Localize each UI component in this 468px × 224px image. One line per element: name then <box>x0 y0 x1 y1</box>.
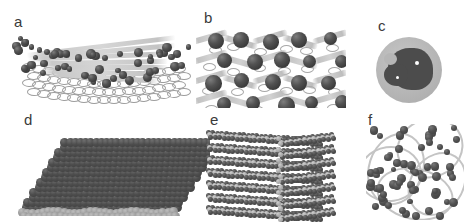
stack-pillar-sphere <box>278 217 283 222</box>
dispersed-nanoparticle <box>418 144 425 151</box>
nanoparticle <box>14 46 23 55</box>
panel-b-artwork <box>196 24 346 108</box>
panel-label-a: a <box>14 14 22 29</box>
stack-pillar-sphere <box>278 185 283 190</box>
intercalated-nanoparticle <box>291 32 307 48</box>
particle-highlight-1 <box>415 61 419 65</box>
stack-pillar-sphere <box>276 201 281 206</box>
dispersed-nanoparticle <box>432 172 441 181</box>
nanoparticle <box>102 55 108 61</box>
stack-pillar-sphere <box>278 163 283 168</box>
dispersed-nanoparticle <box>449 174 456 181</box>
nanoparticle <box>75 54 83 62</box>
intercalated-nanoparticle <box>278 97 295 108</box>
nanoparticle <box>37 47 42 52</box>
intercalated-nanoparticle <box>303 55 316 68</box>
mesh-cell <box>177 87 191 95</box>
stack-pillar-sphere <box>276 212 281 217</box>
stack-sphere <box>318 217 323 222</box>
dispersed-nanoparticle <box>446 163 454 171</box>
intercalated-nanoparticle <box>265 74 281 90</box>
panel-c: c <box>362 18 454 106</box>
intercalated-nanoparticle <box>263 34 279 50</box>
dispersed-nanoparticle <box>399 207 406 214</box>
panel-f-artwork <box>366 124 464 220</box>
intercalated-nanoparticle <box>246 96 260 108</box>
nanoparticle <box>55 65 61 71</box>
stack-sphere-side <box>331 211 336 216</box>
intercalated-nanoparticle <box>335 95 346 109</box>
particle-notch <box>384 53 397 65</box>
stack-pillar-sphere <box>276 190 281 195</box>
intercalated-nanoparticle <box>324 32 337 45</box>
layer-loop <box>231 88 244 96</box>
intercalated-nanoparticle <box>335 55 346 68</box>
dispersed-nanoparticle <box>384 154 392 162</box>
stack-sphere-side <box>331 149 336 154</box>
nanoparticle <box>27 61 35 69</box>
dispersed-nanoparticle <box>407 199 413 205</box>
stack-sphere-side <box>331 161 336 166</box>
dispersed-nanoparticle <box>412 212 420 220</box>
intercalated-nanoparticle <box>217 97 231 108</box>
particle-highlight-2 <box>396 76 399 79</box>
nanoparticle <box>40 60 48 68</box>
nanoparticle <box>51 50 59 58</box>
intercalated-nanoparticle <box>208 33 224 49</box>
panel-a: a <box>6 14 196 108</box>
stack-sphere-side <box>331 136 336 141</box>
nanoparticle <box>88 74 96 82</box>
panel-d: d <box>14 112 210 216</box>
panel-c-artwork <box>372 34 448 106</box>
intercalated-nanoparticle <box>247 54 263 70</box>
particle-core-lobe <box>384 64 408 86</box>
stack-pillar-sphere <box>276 136 281 141</box>
dispersed-nanoparticle <box>385 202 392 209</box>
dispersed-nanoparticle <box>393 159 401 167</box>
nanoparticle <box>119 71 127 79</box>
stack-pillar-sphere <box>276 158 281 163</box>
stack-pillar-sphere <box>278 174 283 179</box>
dispersed-nanoparticle <box>449 198 458 207</box>
dispersed-nanoparticle <box>431 162 440 171</box>
intercalated-nanoparticle <box>205 75 221 91</box>
stack-sphere-side <box>331 199 336 204</box>
layer-loop <box>300 47 313 55</box>
nanoparticle <box>29 44 34 49</box>
dispersed-nanoparticle <box>372 203 379 210</box>
nanoparticle <box>152 67 159 74</box>
stack-sphere-side <box>331 186 336 191</box>
intercalated-nanoparticle <box>305 96 319 108</box>
nanoparticle <box>168 54 175 61</box>
dispersed-nanoparticle <box>425 207 433 215</box>
panel-d-artwork <box>14 124 210 216</box>
panel-e: e <box>204 112 350 222</box>
nanoparticle <box>134 59 142 67</box>
dispersed-nanoparticle <box>370 126 379 135</box>
panel-e-artwork <box>204 124 350 222</box>
dispersed-nanoparticle <box>436 212 444 220</box>
layer-loop <box>203 63 216 71</box>
figure-panel-grid: a b c d e f <box>0 0 468 224</box>
stack-sphere-side <box>331 174 336 179</box>
panel-label-c: c <box>378 18 386 33</box>
nanoparticle <box>162 43 171 52</box>
nanoparticle <box>157 52 163 58</box>
panel-label-b: b <box>204 10 212 25</box>
dispersed-nanoparticle <box>396 180 402 186</box>
nanoparticle <box>186 44 192 50</box>
intercalated-nanoparticle <box>274 52 290 68</box>
mesh-cell <box>177 71 191 79</box>
panel-a-artwork <box>6 28 196 108</box>
sublayer-sphere <box>171 212 180 216</box>
intercalated-nanoparticle <box>217 53 232 68</box>
panel-f: f <box>358 112 468 222</box>
panel-b: b <box>196 10 346 108</box>
nanoparticle <box>102 79 110 87</box>
nanoparticle <box>134 48 143 57</box>
intercalated-nanoparticle <box>233 32 249 48</box>
stack-pillar-sphere <box>276 147 281 152</box>
dispersed-nanoparticle <box>412 169 418 175</box>
